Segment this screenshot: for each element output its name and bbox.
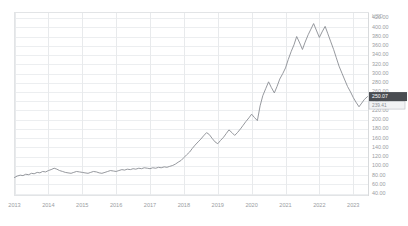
stock-price-chart: 420.00400.00380.00360.00340.00320.00300.… <box>0 0 408 226</box>
x-axis-tick-label: 2021 <box>279 202 291 208</box>
y-axis-tick-label: 180.00 <box>372 125 389 131</box>
y-axis-tick-label: 380.00 <box>372 33 389 39</box>
x-axis-tick-label: 2014 <box>42 202 54 208</box>
secondary-price-value: 239.41 <box>372 103 387 108</box>
y-axis-unit-label: USD <box>372 13 383 19</box>
y-axis-tick-label: 40.00 <box>372 190 386 196</box>
y-axis-tick-label: 80.00 <box>372 172 386 178</box>
y-axis-tick-label: 280.00 <box>372 79 389 85</box>
y-axis-tick-label: 200.00 <box>372 116 389 122</box>
y-axis-tick-label: 400.00 <box>372 24 389 30</box>
x-axis-tick-label: 2016 <box>110 202 122 208</box>
x-axis-tick-label: 2018 <box>178 202 190 208</box>
grid-vertical <box>16 13 354 196</box>
current-price-badge[interactable]: 250.07 239.41 <box>369 92 407 109</box>
x-axis-tick-label: 2013 <box>8 202 20 208</box>
y-axis-tick-label: 100.00 <box>372 162 389 168</box>
y-axis-tick-label: 300.00 <box>372 70 389 76</box>
y-axis-tick-label: 360.00 <box>372 42 389 48</box>
y-axis-tick-label: 120.00 <box>372 153 389 159</box>
grid-horizontal <box>15 19 369 195</box>
price-badge-value: 250.07 <box>372 93 388 99</box>
chart-canvas: 420.00400.00380.00360.00340.00320.00300.… <box>0 0 408 226</box>
x-axis-tick-label: 2017 <box>144 202 156 208</box>
y-axis-tick-label: 320.00 <box>372 61 389 67</box>
x-axis-tick-label: 2023 <box>347 202 359 208</box>
x-axis-tick-label: 2019 <box>212 202 224 208</box>
y-axis-tick-label: 140.00 <box>372 144 389 150</box>
x-axis-tick-label: 2022 <box>313 202 325 208</box>
y-axis-tick-label: 60.00 <box>372 181 386 187</box>
y-axis-tick-label: 160.00 <box>372 135 389 141</box>
x-axis-tick-label: 2020 <box>245 202 257 208</box>
plot-area-border <box>15 13 369 196</box>
y-axis-tick-label: 340.00 <box>372 51 389 57</box>
x-axis-tick-label: 2015 <box>76 202 88 208</box>
x-axis-tick-labels: 2013201420152016201720182019202020212022… <box>8 202 359 208</box>
